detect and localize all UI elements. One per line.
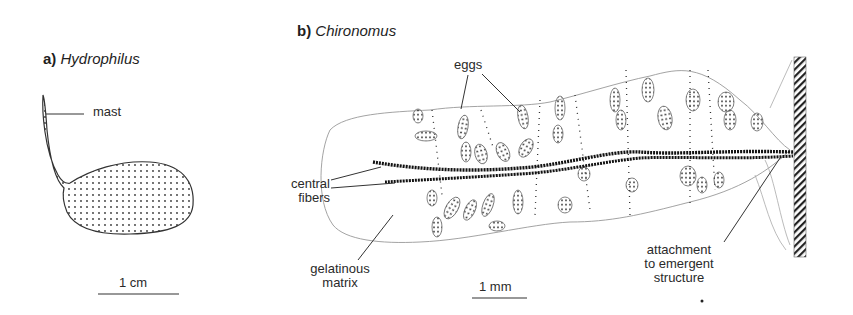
panel-b-title: b) Chironomus [297, 22, 396, 39]
label-mast: mast [93, 105, 121, 119]
panel-b-letter: b) [297, 22, 311, 39]
label-attachment: attachment to emergent structure [632, 243, 726, 285]
label-eggs: eggs [454, 58, 482, 72]
stray-mark [701, 300, 704, 303]
label-central-fibers: central fibers [268, 177, 330, 205]
label-gelatinous-matrix: gelatinous matrix [298, 262, 382, 290]
emergent-structure [794, 57, 806, 257]
scale-label-b: 1 mm [479, 280, 512, 294]
panel-b-taxon: Chironomus [315, 22, 396, 39]
panel-a-taxon: Hydrophilus [61, 50, 140, 67]
chironomus-egg-mass [321, 60, 793, 250]
panel-a-letter: a) [43, 50, 56, 67]
scale-label-a: 1 cm [119, 276, 147, 290]
panel-a-title: a) Hydrophilus [43, 50, 140, 67]
